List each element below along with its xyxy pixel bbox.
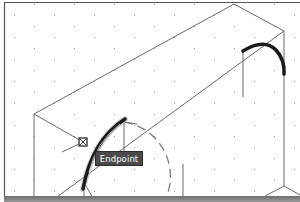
selected-arc-top-right[interactable] [243,44,284,74]
grid-dots [14,4,295,202]
box-geometry [34,4,300,202]
drawing-viewport[interactable]: Endpoint [0,0,300,202]
viewport-bottom-edge [4,196,300,202]
viewport-frame [4,2,300,196]
drawing-canvas[interactable] [0,0,300,202]
endpoint-snap-marker [79,138,87,146]
snap-tooltip: Endpoint [95,151,143,166]
